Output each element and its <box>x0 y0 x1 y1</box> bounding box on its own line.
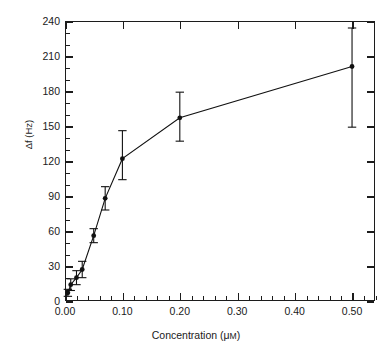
x-tick-minor <box>261 296 262 300</box>
page-folio: 22 <box>6 0 15 1</box>
y-tick-major-right <box>367 126 374 127</box>
x-tick-minor <box>364 296 365 300</box>
x-tick-major <box>123 293 124 300</box>
y-tick-major <box>66 266 73 267</box>
y-tick-minor <box>66 138 70 139</box>
y-tick-minor <box>66 255 70 256</box>
y-tick-minor <box>66 150 70 151</box>
y-tick-major-right <box>367 196 374 197</box>
x-axis-title: Concentration (μM) <box>0 329 392 341</box>
y-tick-minor <box>66 220 70 221</box>
x-tick-major-top <box>180 22 181 29</box>
y-tick-label: 180 <box>26 86 60 96</box>
y-tick-minor <box>66 243 70 244</box>
y-tick-label: 210 <box>26 51 60 61</box>
x-tick-major <box>238 293 239 300</box>
y-tick-minor <box>66 68 70 69</box>
running-header-text: TESTING OF GENETICALLY MODIFIED ORGANISM… <box>26 0 285 1</box>
y-tick-label: 30 <box>26 261 60 271</box>
y-tick-major-right <box>367 161 374 162</box>
x-tick-minor <box>307 296 308 300</box>
y-tick-minor <box>66 33 70 34</box>
x-tick-label: 0.10 <box>102 305 142 317</box>
x-tick-minor <box>77 296 78 300</box>
y-tick-major <box>66 161 73 162</box>
x-tick-minor <box>146 296 147 300</box>
y-tick-major-right <box>367 21 374 22</box>
y-tick-major <box>66 301 73 302</box>
x-tick-minor <box>376 296 377 300</box>
x-tick-label: 0.00 <box>45 305 85 317</box>
x-tick-major-top <box>352 22 353 29</box>
y-tick-minor <box>66 185 70 186</box>
plot-area <box>65 21 375 301</box>
y-tick-label: 90 <box>26 191 60 201</box>
y-tick-minor <box>66 278 70 279</box>
x-axis-title-text: Concentration (μM) <box>152 329 241 341</box>
x-tick-major-top <box>238 22 239 29</box>
x-tick-minor <box>341 296 342 300</box>
x-tick-minor <box>226 296 227 300</box>
y-tick-minor <box>66 80 70 81</box>
x-axis-tick-labels: 0.000.100.200.300.400.50 <box>0 305 392 321</box>
y-tick-minor <box>66 103 70 104</box>
x-tick-label: 0.50 <box>332 305 372 317</box>
x-tick-minor <box>249 296 250 300</box>
y-tick-major <box>66 126 73 127</box>
x-tick-minor <box>272 296 273 300</box>
y-tick-major-right <box>367 91 374 92</box>
x-tick-minor <box>100 296 101 300</box>
x-tick-minor <box>318 296 319 300</box>
y-tick-label: 60 <box>26 226 60 236</box>
x-tick-minor <box>88 296 89 300</box>
chart-figure: Δf (Hz) 0306090120150180210240 0.000.100… <box>0 9 392 360</box>
x-tick-major <box>352 293 353 300</box>
running-header: 22 TESTING OF GENETICALLY MODIFIED ORGAN… <box>0 0 392 9</box>
y-tick-label: 120 <box>26 156 60 166</box>
y-tick-major-right <box>367 56 374 57</box>
y-tick-major <box>66 56 73 57</box>
x-tick-minor <box>169 296 170 300</box>
y-tick-minor <box>66 173 70 174</box>
x-tick-minor <box>215 296 216 300</box>
y-tick-major <box>66 91 73 92</box>
x-tick-minor <box>134 296 135 300</box>
y-tick-minor <box>66 290 70 291</box>
x-tick-minor <box>192 296 193 300</box>
y-tick-label: 240 <box>26 16 60 26</box>
x-tick-minor <box>111 296 112 300</box>
x-tick-minor <box>157 296 158 300</box>
x-tick-major-top <box>123 22 124 29</box>
y-tick-major <box>66 21 73 22</box>
x-tick-minor <box>330 296 331 300</box>
y-tick-minor <box>66 208 70 209</box>
x-tick-major-top <box>295 22 296 29</box>
x-tick-label: 0.30 <box>217 305 257 317</box>
x-tick-label: 0.40 <box>275 305 315 317</box>
y-tick-label: 150 <box>26 121 60 131</box>
x-tick-label: 0.20 <box>160 305 200 317</box>
y-tick-major-right <box>367 301 374 302</box>
y-tick-major <box>66 196 73 197</box>
y-tick-major-right <box>367 231 374 232</box>
y-tick-major-right <box>367 266 374 267</box>
x-tick-major <box>295 293 296 300</box>
x-tick-major <box>65 293 66 300</box>
x-tick-minor <box>284 296 285 300</box>
x-tick-major-top <box>65 22 66 29</box>
x-tick-minor <box>203 296 204 300</box>
y-tick-minor <box>66 115 70 116</box>
x-tick-major <box>180 293 181 300</box>
y-tick-minor <box>66 45 70 46</box>
y-tick-major <box>66 231 73 232</box>
